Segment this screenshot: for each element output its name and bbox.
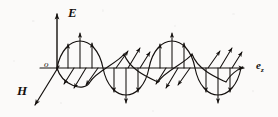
h-field-arrow: [208, 51, 220, 68]
e-axis-label: E: [68, 6, 77, 19]
h-field-arrow: [178, 68, 190, 85]
h-field-arrow: [232, 52, 242, 68]
h-axis-label: H: [17, 84, 27, 97]
h-field-arrow: [140, 52, 150, 68]
h-field-arrow: [128, 48, 140, 68]
h-field-arrow: [220, 48, 232, 68]
h-axis-line: [35, 66, 59, 105]
h-field-arrow: [86, 68, 98, 85]
propagation-axis-label: ez: [256, 60, 264, 74]
h-field-arrow: [166, 68, 178, 88]
propagation-axis-label-subscript: z: [261, 66, 264, 74]
h-field-arrow: [64, 68, 74, 84]
axis-group: [35, 14, 244, 105]
origin-label: o: [44, 60, 49, 69]
em-wave-figure: E H o ez: [0, 0, 278, 117]
h-field-arrow: [156, 68, 166, 84]
h-field-arrow: [74, 68, 86, 88]
em-wave-drawing: [0, 0, 278, 117]
